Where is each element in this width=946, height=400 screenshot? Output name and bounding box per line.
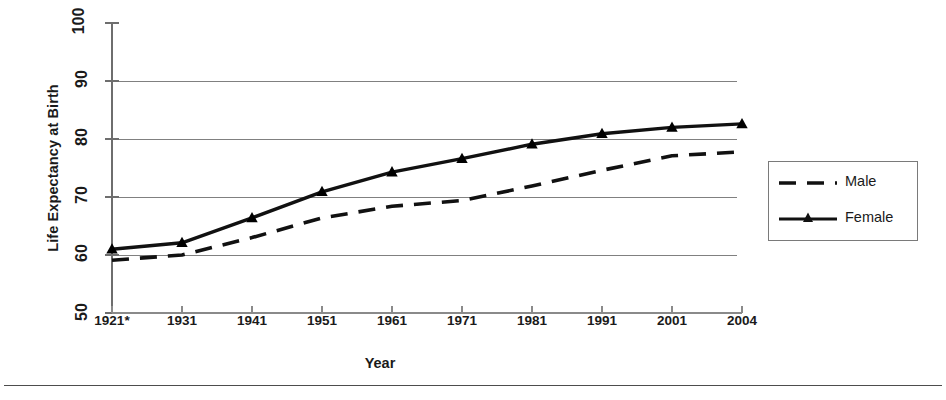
legend-item-female: Female	[769, 206, 919, 232]
chart-legend: Male Female	[768, 161, 918, 241]
x-tick-label: 1941	[220, 313, 284, 328]
legend-label-male: Male	[845, 173, 876, 189]
series-line-female	[112, 124, 742, 249]
x-axis-ticks	[112, 306, 742, 313]
x-tick-label: 1921*	[80, 313, 144, 328]
series-markers-female	[106, 118, 747, 254]
x-tick-label: 1961	[360, 313, 424, 328]
x-tick-label: 1971	[430, 313, 494, 328]
x-tick-label: 2004	[710, 313, 774, 328]
legend-swatch-female-solid-line	[777, 206, 839, 232]
legend-swatch-male-dashed-line	[777, 170, 839, 196]
chart-figure: Life Expectancy at Birth 50 60 70 80 90 …	[0, 0, 946, 400]
x-tick-label: 1981	[500, 313, 564, 328]
legend-item-male: Male	[769, 170, 919, 196]
x-tick-label: 1931	[150, 313, 214, 328]
gridlines	[112, 81, 737, 255]
series-line-male	[112, 152, 742, 260]
legend-label-female: Female	[845, 209, 893, 225]
x-tick-label: 2001	[640, 313, 704, 328]
x-tick-label: 1951	[290, 313, 354, 328]
bottom-divider	[4, 385, 942, 386]
x-tick-label: 1991	[570, 313, 634, 328]
x-axis-title: Year	[0, 355, 760, 371]
